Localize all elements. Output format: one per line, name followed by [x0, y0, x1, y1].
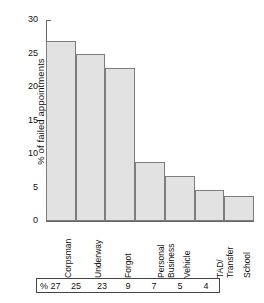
y-axis-tick: 30 — [18, 20, 46, 21]
y-axis-tick-label: 5 — [33, 182, 38, 193]
y-axis-tick-mark — [46, 20, 51, 21]
y-axis-tick-label: 0 — [33, 215, 38, 226]
value-cell: 5 — [167, 281, 193, 291]
bar — [76, 54, 106, 221]
y-axis-tick: 0 — [18, 221, 46, 222]
bar — [105, 68, 135, 221]
y-axis-tick-label: 10 — [28, 148, 38, 159]
plot-area: 051015202530 — [46, 20, 254, 222]
bar-chart-figure: % of failed appointments 051015202530 Co… — [0, 0, 264, 303]
y-axis-tick: 10 — [18, 154, 46, 155]
y-axis-tick: 25 — [18, 54, 46, 55]
bar — [46, 41, 76, 221]
x-axis-category-label: Underway — [94, 208, 104, 278]
x-axis-category-label: Vehicle — [183, 208, 193, 278]
x-axis-category-labels: CorpsmanUnderwayForgotPersonal BusinessV… — [46, 226, 254, 278]
value-cell: % 27 — [37, 281, 63, 291]
value-cell: 7 — [141, 281, 167, 291]
x-axis-category-label: Corpsman — [64, 208, 74, 278]
value-cell: 9 — [115, 281, 141, 291]
x-axis-category-label: School — [243, 208, 253, 278]
y-axis-tick: 5 — [18, 188, 46, 189]
x-axis-category-label: TAD/ Transfer — [216, 208, 235, 278]
y-axis-tick-mark — [46, 221, 51, 222]
x-axis-category-label: Forgot — [124, 208, 134, 278]
value-cell: 4 — [193, 281, 219, 291]
value-summary-table: % 2725239754 — [36, 278, 220, 293]
x-axis-category-label: Personal Business — [157, 208, 176, 278]
value-cell: 25 — [63, 281, 89, 291]
y-axis-tick-label: 30 — [28, 14, 38, 25]
y-axis-tick: 20 — [18, 87, 46, 88]
y-axis-tick: 15 — [18, 121, 46, 122]
value-cell: 23 — [89, 281, 115, 291]
y-axis-tick-label: 15 — [28, 115, 38, 126]
y-axis-tick-label: 20 — [28, 81, 38, 92]
y-axis-tick-label: 25 — [28, 48, 38, 59]
